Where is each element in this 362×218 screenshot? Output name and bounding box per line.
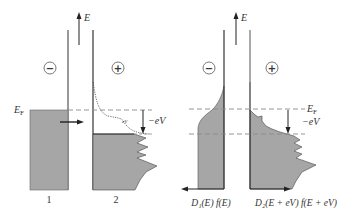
energy-axis-arrow-icon-right [234, 12, 239, 45]
positive-electrode-sign: + [112, 62, 124, 74]
bias-arrow-icon-right [286, 110, 291, 134]
dos-1-label: D₁(E) f(E) [190, 198, 230, 209]
fermi-level-label: EF [13, 104, 24, 117]
bias-label: −eV [148, 115, 167, 126]
electrode-1-label: 1 [47, 194, 52, 205]
bias-arrow-icon [141, 110, 146, 134]
energy-axis-label: E [83, 12, 90, 23]
electrode-2-label: 2 [114, 194, 119, 205]
svg-text:+: + [268, 63, 276, 74]
negative-electrode-sign: − [44, 62, 56, 74]
svg-text:+: + [114, 63, 122, 74]
tunneling-energy-diagram: E − + EF eV [0, 0, 362, 218]
negative-electrode-sign-right: − [203, 62, 215, 74]
fermi-dirac-dotted-curve [93, 82, 150, 134]
bias-label-right: −eV [302, 116, 321, 127]
svg-text:−: − [46, 63, 54, 74]
electrode-2-filled-states [93, 134, 157, 190]
left-panel: E − + EF eV [13, 12, 167, 205]
dos-1-filled-region [198, 86, 224, 189]
svg-text:eV: eV [122, 119, 128, 124]
svg-text:−: − [205, 63, 213, 74]
energy-axis-arrow-icon [77, 12, 82, 45]
right-panel: E − + −eV EF [181, 12, 337, 209]
energy-axis-label-right: E [240, 12, 247, 23]
dos-2-label: D₂(E + eV) f(E + eV) [254, 198, 337, 209]
fermi-level-label-right: EF [306, 103, 317, 116]
positive-electrode-sign-right: + [266, 62, 278, 74]
